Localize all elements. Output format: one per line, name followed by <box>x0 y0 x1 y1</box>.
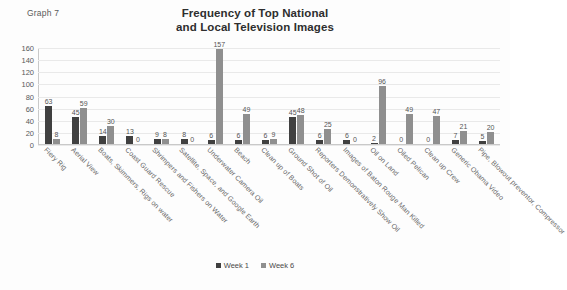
y-axis-tick-label: 140 <box>21 56 34 65</box>
bar-group: 721 <box>446 48 473 144</box>
bar-value-label: 14 <box>99 128 107 136</box>
bar[interactable]: 8 <box>181 139 188 144</box>
bar[interactable]: 6 <box>262 140 269 144</box>
legend-item[interactable]: Week 1 <box>216 261 249 270</box>
bar[interactable]: 9 <box>270 139 277 144</box>
bar-value-label: 9 <box>155 131 159 139</box>
bar-group: 60 <box>337 48 364 144</box>
bar-value-label: 49 <box>243 106 251 114</box>
bar-group: 80 <box>175 48 202 144</box>
bar[interactable]: 21 <box>460 131 467 144</box>
y-axis-tick-label: 80 <box>26 92 34 101</box>
y-axis-tick-label: 100 <box>21 80 34 89</box>
graph-number-label: Graph 7 <box>27 8 59 18</box>
x-axis-label: Generic Obama Video <box>450 146 505 201</box>
bar-value-label: 45 <box>72 109 80 117</box>
x-axis-label: Coast Guard Rescue <box>124 146 176 198</box>
bar[interactable]: 63 <box>45 106 52 144</box>
chart-title-line-2: and Local Television Images <box>130 20 380 34</box>
bar[interactable]: 6 <box>343 140 350 144</box>
bar[interactable]: 6 <box>316 140 323 144</box>
bar-value-label: 63 <box>45 98 53 106</box>
bar[interactable]: 49 <box>406 114 413 144</box>
bar[interactable]: 2 <box>371 143 378 144</box>
bar-value-label: 21 <box>460 123 468 131</box>
bar-value-label: 6 <box>264 132 268 140</box>
bar-value-label: 9 <box>272 131 276 139</box>
bar[interactable]: 45 <box>72 117 79 144</box>
x-axis-label: Underwater Camera Oil <box>206 146 264 204</box>
chart-legend: Week 1Week 6 <box>0 261 510 270</box>
bar[interactable]: 20 <box>487 132 494 144</box>
bar-group: 98 <box>148 48 175 144</box>
bar-value-label: 45 <box>289 109 297 117</box>
y-axis-tick-label: 60 <box>26 104 34 113</box>
bar[interactable]: 5 <box>479 141 486 144</box>
bar-group: 638 <box>39 48 66 144</box>
bar-value-label: 6 <box>318 132 322 140</box>
bar-value-label: 48 <box>297 107 305 115</box>
legend-item[interactable]: Week 6 <box>261 261 294 270</box>
bar-value-label: 96 <box>378 78 386 86</box>
chart-title: Frequency of Top National and Local Tele… <box>130 6 380 34</box>
bar-value-label: 20 <box>487 124 495 132</box>
bar[interactable]: 8 <box>53 139 60 144</box>
x-axis-label: Beach <box>233 146 252 165</box>
bar-value-label: 157 <box>213 41 225 49</box>
bar[interactable]: 7 <box>452 140 459 144</box>
y-axis-tick-label: 120 <box>21 68 34 77</box>
bar-group: 69 <box>256 48 283 144</box>
bar[interactable]: 96 <box>379 86 386 144</box>
y-axis-tick-label: 0 <box>30 141 34 150</box>
x-axis-category-labels: Fiery RigAerial ViewBoats, Skimmers, Rig… <box>38 146 500 256</box>
y-axis-tick-label: 20 <box>26 128 34 137</box>
legend-swatch <box>216 263 221 268</box>
bar-groups: 6384559143013098806157649694548625602960… <box>39 48 500 144</box>
bar[interactable]: 14 <box>99 136 106 144</box>
y-axis-tick-label: 160 <box>21 44 34 53</box>
bar-value-label: 8 <box>182 131 186 139</box>
legend-swatch <box>261 263 266 268</box>
bar[interactable]: 6 <box>235 140 242 144</box>
bar[interactable]: 30 <box>107 126 114 144</box>
bar-value-label: 6 <box>209 132 213 140</box>
x-axis-label: Fiery Rig <box>43 146 68 171</box>
bar-group: 049 <box>392 48 419 144</box>
bar-value-label: 25 <box>324 121 332 129</box>
bar-value-label: 0 <box>353 136 357 144</box>
bar-value-label: 13 <box>126 128 134 136</box>
bar[interactable]: 25 <box>324 129 331 144</box>
bar[interactable]: 47 <box>433 116 440 144</box>
bar-group: 047 <box>419 48 446 144</box>
bar[interactable]: 48 <box>297 115 304 144</box>
bar[interactable]: 6 <box>208 140 215 144</box>
bar-value-label: 49 <box>405 106 413 114</box>
bar-group: 296 <box>365 48 392 144</box>
bar-value-label: 59 <box>80 100 88 108</box>
bar-value-label: 2 <box>372 135 376 143</box>
bar[interactable]: 45 <box>289 117 296 144</box>
bar[interactable]: 59 <box>80 108 87 144</box>
plot-area: 020406080100120140160 638455914301309880… <box>38 48 500 145</box>
legend-label: Week 1 <box>224 261 249 270</box>
bar[interactable]: 8 <box>162 139 169 144</box>
bar-value-label: 8 <box>163 131 167 139</box>
x-axis-label: Aerial View <box>70 146 100 176</box>
bar-group: 130 <box>120 48 147 144</box>
chart-title-line-1: Frequency of Top National <box>130 6 380 20</box>
bar-value-label: 5 <box>481 133 485 141</box>
bar-value-label: 0 <box>190 136 194 144</box>
bar-group: 649 <box>229 48 256 144</box>
bar-group: 4559 <box>66 48 93 144</box>
bar[interactable]: 49 <box>243 114 250 144</box>
bar-group: 1430 <box>93 48 120 144</box>
y-axis-tick-label: 40 <box>26 116 34 125</box>
bar-value-label: 8 <box>55 131 59 139</box>
bar-value-label: 6 <box>236 132 240 140</box>
bar[interactable]: 157 <box>216 49 223 144</box>
bar-group: 625 <box>310 48 337 144</box>
bar[interactable]: 13 <box>126 136 133 144</box>
bar-group: 4548 <box>283 48 310 144</box>
bar[interactable]: 9 <box>154 139 161 144</box>
